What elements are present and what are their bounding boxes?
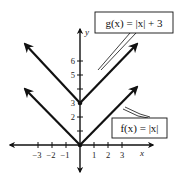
- y-axis-label: y: [84, 27, 89, 37]
- svg-text:−2: −2: [46, 150, 55, 160]
- x-tick-labels: −3 −2 −1 1 2 3: [32, 150, 124, 160]
- graph-canvas: −3 −2 −1 1 2 3 2 3 5 6 x y g(x) = |x| + …: [0, 0, 184, 178]
- svg-text:6: 6: [71, 56, 75, 66]
- x-axis-label: x: [139, 148, 144, 158]
- svg-text:2: 2: [106, 150, 110, 160]
- svg-text:−1: −1: [60, 150, 69, 160]
- g-vertex-point: [78, 101, 83, 106]
- y-tick-labels: 2 3 5 6: [71, 56, 75, 122]
- f-vertex-point: [78, 143, 83, 148]
- svg-text:1: 1: [92, 150, 96, 160]
- g-callout: g(x) = |x| + 3: [95, 12, 173, 70]
- svg-text:3: 3: [71, 98, 75, 108]
- svg-text:3: 3: [120, 150, 124, 160]
- svg-text:5: 5: [71, 70, 75, 80]
- g-label-text: g(x) = |x| + 3: [105, 17, 163, 30]
- f-callout: f(x) = |x|: [112, 107, 167, 138]
- f-label-text: f(x) = |x|: [120, 122, 158, 135]
- svg-text:2: 2: [71, 112, 75, 122]
- svg-text:−3: −3: [32, 150, 41, 160]
